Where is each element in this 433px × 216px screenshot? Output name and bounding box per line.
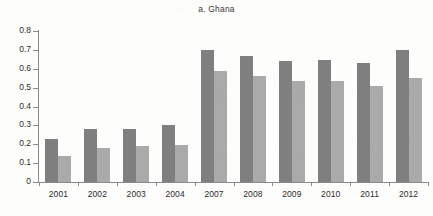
y-tick-label: 0.2 bbox=[1, 139, 31, 148]
y-tick-label: 0.5 bbox=[1, 83, 31, 92]
y-tick-label-wrap: 0.4 bbox=[0, 102, 31, 111]
x-axis-label-2009: 2009 bbox=[272, 189, 311, 199]
y-tick-label: 0.4 bbox=[1, 102, 31, 111]
y-tick-mark bbox=[33, 50, 38, 51]
bar-series-2-2010 bbox=[331, 81, 344, 182]
y-tick-label: 0.3 bbox=[1, 120, 31, 129]
x-tick-mark bbox=[389, 182, 390, 186]
bar-series-1-2007 bbox=[201, 50, 214, 182]
y-tick-mark bbox=[33, 88, 38, 89]
x-tick-mark bbox=[234, 182, 235, 186]
x-axis-label-2001: 2001 bbox=[39, 189, 78, 199]
y-tick-label-wrap: 0.1 bbox=[0, 158, 31, 167]
bar-series-2-2002 bbox=[97, 148, 110, 182]
bar-series-2-2011 bbox=[370, 86, 383, 182]
x-tick-mark bbox=[156, 182, 157, 186]
y-tick-label-wrap: 0.6 bbox=[0, 64, 31, 73]
bar-series-2-2009 bbox=[292, 81, 305, 182]
bar-series-1-2011 bbox=[357, 63, 370, 182]
bar-series-1-2003 bbox=[123, 129, 136, 182]
x-axis-line bbox=[38, 182, 428, 183]
y-tick-label-wrap: 0 bbox=[0, 177, 31, 186]
y-tick-mark bbox=[33, 125, 38, 126]
y-tick-label-wrap: 0.7 bbox=[0, 45, 31, 54]
bar-series-1-2008 bbox=[240, 56, 253, 182]
bar-series-1-2010 bbox=[318, 60, 331, 182]
bar-series-2-2007 bbox=[214, 71, 227, 182]
y-tick-label-wrap: 0.8 bbox=[0, 26, 31, 35]
bar-series-2-2001 bbox=[58, 156, 71, 182]
bar-series-1-2001 bbox=[45, 139, 58, 182]
x-tick-mark bbox=[195, 182, 196, 186]
bar-series-1-2004 bbox=[162, 125, 175, 182]
bar-series-2-2012 bbox=[409, 78, 422, 182]
y-tick-label-wrap: 0.5 bbox=[0, 83, 31, 92]
x-axis-label-2010: 2010 bbox=[311, 189, 350, 199]
bar-series-2-2008 bbox=[253, 76, 266, 182]
y-tick-mark bbox=[33, 144, 38, 145]
chart-container: a. Ghana 00.10.20.30.40.50.60.70.8 20012… bbox=[0, 0, 433, 216]
x-tick-mark bbox=[311, 182, 312, 186]
x-axis-label-2008: 2008 bbox=[234, 189, 273, 199]
x-tick-mark bbox=[428, 182, 429, 186]
y-tick-mark bbox=[33, 69, 38, 70]
chart-title: a. Ghana bbox=[0, 4, 433, 14]
x-axis-label-2012: 2012 bbox=[389, 189, 428, 199]
y-tick-mark bbox=[33, 107, 38, 108]
y-tick-label: 0.7 bbox=[1, 45, 31, 54]
bar-series-2-2003 bbox=[136, 146, 149, 182]
y-tick-mark bbox=[33, 182, 38, 183]
y-tick-label: 0.1 bbox=[1, 158, 31, 167]
x-tick-mark bbox=[117, 182, 118, 186]
y-tick-label: 0.6 bbox=[1, 64, 31, 73]
y-tick-mark bbox=[33, 163, 38, 164]
x-tick-mark bbox=[272, 182, 273, 186]
bar-series-2-2004 bbox=[175, 145, 188, 182]
x-tick-mark bbox=[350, 182, 351, 186]
y-tick-label: 0 bbox=[1, 177, 31, 186]
y-tick-label: 0.8 bbox=[1, 26, 31, 35]
x-axis-label-2011: 2011 bbox=[350, 189, 389, 199]
bar-series-1-2009 bbox=[279, 61, 292, 182]
x-tick-mark bbox=[39, 182, 40, 186]
y-tick-label-wrap: 0.2 bbox=[0, 139, 31, 148]
y-axis-line bbox=[38, 30, 39, 183]
bar-series-1-2012 bbox=[396, 50, 409, 182]
x-axis-label-2007: 2007 bbox=[195, 189, 234, 199]
x-tick-mark bbox=[78, 182, 79, 186]
x-axis-label-2003: 2003 bbox=[117, 189, 156, 199]
x-axis-label-2002: 2002 bbox=[78, 189, 117, 199]
bar-series-1-2002 bbox=[84, 129, 97, 182]
y-tick-label-wrap: 0.3 bbox=[0, 120, 31, 129]
x-axis-label-2004: 2004 bbox=[156, 189, 195, 199]
y-tick-mark bbox=[33, 31, 38, 32]
